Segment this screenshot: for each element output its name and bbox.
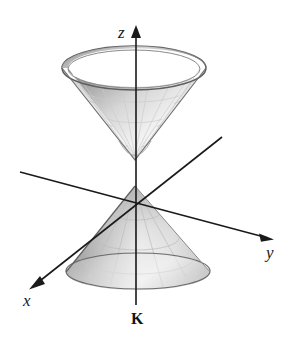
z-axis-arrowhead	[131, 25, 141, 38]
cone-diagram-canvas	[0, 0, 288, 339]
upper-cone-rim-inner	[68, 50, 200, 88]
x-axis-label: x	[23, 292, 31, 309]
double-cone-figure: z y x K	[0, 0, 288, 339]
z-axis-label: z	[118, 24, 125, 41]
y-axis-label: y	[266, 244, 274, 261]
upper-cone	[62, 46, 206, 160]
lower-cone	[66, 186, 210, 290]
lower-cone-base-face	[66, 254, 210, 290]
upper-cone-interior	[68, 68, 200, 156]
origin-point-label: K	[131, 311, 143, 327]
y-axis-arrowhead	[259, 234, 274, 242]
